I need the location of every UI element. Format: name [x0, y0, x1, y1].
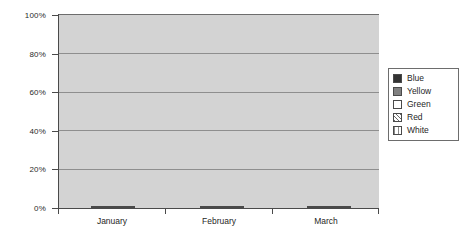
gridline-80 — [59, 53, 379, 54]
legend-label-red: Red — [407, 113, 423, 122]
y-axis: 100% 80% 60% 40% 20% 0% — [0, 0, 58, 239]
x-tick-label-march: March — [314, 216, 338, 226]
gridline-40 — [59, 130, 379, 131]
legend-label-white: White — [407, 126, 429, 135]
legend-swatch-blue-icon — [393, 74, 402, 83]
x-tick-mark-2 — [272, 208, 273, 214]
gridline-20 — [59, 169, 379, 170]
legend-item-red[interactable]: Red — [393, 111, 454, 124]
x-axis-line — [58, 208, 379, 209]
chart-legend: Blue Yellow Green Red White — [388, 68, 459, 141]
legend-item-blue[interactable]: Blue — [393, 72, 454, 85]
legend-swatch-red-icon — [393, 113, 402, 122]
gridline-100 — [59, 14, 379, 15]
y-tick-label-20: 20% — [29, 165, 46, 174]
legend-label-blue: Blue — [407, 74, 424, 83]
y-tick-label-60: 60% — [29, 88, 46, 97]
y-tick-label-0: 0% — [34, 204, 46, 213]
gridline-60 — [59, 92, 379, 93]
y-tick-label-40: 40% — [29, 126, 46, 135]
legend-swatch-white-icon — [393, 126, 402, 135]
legend-label-green: Green — [407, 100, 431, 109]
legend-item-white[interactable]: White — [393, 124, 454, 137]
stacked-bar-chart: 100% 80% 60% 40% 20% 0% — [0, 0, 465, 239]
legend-swatch-green-icon — [393, 100, 402, 109]
legend-item-green[interactable]: Green — [393, 98, 454, 111]
x-tick-label-february: February — [202, 216, 236, 226]
x-tick-mark-3 — [378, 208, 379, 214]
x-tick-mark-0 — [58, 208, 59, 214]
y-tick-label-80: 80% — [29, 49, 46, 58]
plot-area — [58, 14, 379, 208]
x-tick-label-january: January — [97, 216, 127, 226]
legend-swatch-yellow-icon — [393, 87, 402, 96]
y-tick-label-100: 100% — [25, 11, 46, 20]
x-tick-mark-1 — [165, 208, 166, 214]
legend-label-yellow: Yellow — [407, 87, 431, 96]
legend-item-yellow[interactable]: Yellow — [393, 85, 454, 98]
